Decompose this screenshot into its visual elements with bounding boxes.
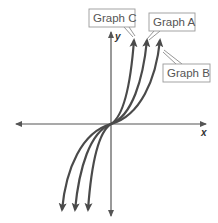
x-axis-label: x [200, 127, 207, 138]
graph-a-label-text: Graph A [153, 16, 196, 28]
graph-b-label: Graph B [163, 50, 210, 82]
graph-b-label-text: Graph B [167, 67, 210, 79]
cubic-graph-diagram: x y Graph C Graph A Graph B [0, 0, 218, 223]
y-axis-label: y [114, 31, 121, 42]
graph-c-label: Graph C [89, 9, 136, 37]
graph-c-label-text: Graph C [93, 12, 136, 24]
graph-a-label: Graph A [147, 13, 196, 40]
